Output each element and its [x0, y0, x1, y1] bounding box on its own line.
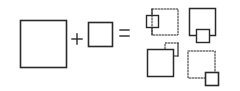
arrangement-4-small-square [206, 73, 219, 86]
small-square [89, 23, 113, 47]
arrangement-3 [148, 43, 179, 77]
arrangement-2 [190, 9, 216, 43]
equals-sign [120, 30, 129, 36]
arrangement-3-small-square-dotted [165, 43, 178, 49]
arrangement-1-large-square-dotted [152, 9, 178, 35]
arrangement-2-small-square [197, 30, 210, 43]
arrangement-3-large-square [148, 50, 174, 77]
plus-sign [72, 34, 82, 44]
diagram-canvas [0, 0, 240, 91]
large-square [21, 21, 67, 68]
arrangement-1 [147, 9, 179, 35]
arrangement-4 [188, 51, 219, 86]
